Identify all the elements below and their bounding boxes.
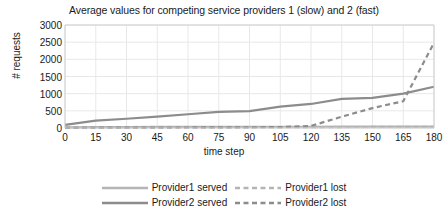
legend-row: Provider1 servedProvider1 lost: [102, 182, 347, 193]
chart-container: Average values for competing service pro…: [0, 0, 448, 218]
dashed-line-icon: [235, 184, 281, 192]
x-tick-label: 45: [152, 132, 163, 143]
legend-row: Provider2 servedProvider2 lost: [102, 197, 347, 208]
x-tick-label: 120: [303, 132, 320, 143]
legend-item[interactable]: Provider1 lost: [235, 182, 346, 193]
legend-label: Provider1 served: [152, 182, 228, 193]
x-axis-label: time step: [0, 146, 448, 157]
x-tick-label: 105: [272, 132, 289, 143]
legend-item[interactable]: Provider1 served: [102, 182, 228, 193]
solid-line-icon: [102, 199, 148, 207]
x-tick-label: 180: [426, 132, 443, 143]
x-tick-label: 165: [395, 132, 412, 143]
chart-legend: Provider1 servedProvider1 lostProvider2 …: [0, 182, 448, 208]
x-tick-label: 15: [90, 132, 101, 143]
x-tick-label: 75: [213, 132, 224, 143]
solid-line-icon: [102, 184, 148, 192]
x-tick-label: 90: [244, 132, 255, 143]
x-tick-label: 30: [121, 132, 132, 143]
x-tick-label: 150: [364, 132, 381, 143]
x-tick-label: 60: [182, 132, 193, 143]
legend-item[interactable]: Provider2 lost: [235, 197, 346, 208]
x-tick-label: 0: [62, 132, 68, 143]
x-tick-label: 135: [333, 132, 350, 143]
dashed-line-icon: [235, 199, 281, 207]
legend-item[interactable]: Provider2 served: [102, 197, 228, 208]
y-axis-label: # requests: [11, 18, 22, 94]
legend-label: Provider1 lost: [285, 182, 346, 193]
legend-label: Provider2 lost: [285, 197, 346, 208]
legend-label: Provider2 served: [152, 197, 228, 208]
